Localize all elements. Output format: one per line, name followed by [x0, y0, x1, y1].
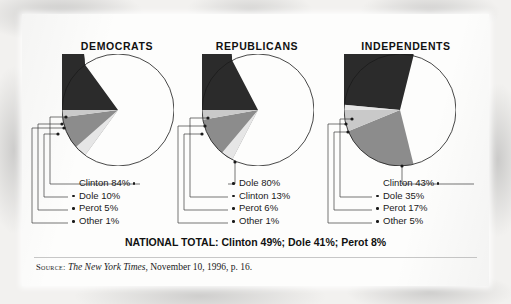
pie-chart-independents	[344, 54, 456, 166]
label-row: Clinton 13%	[232, 190, 290, 203]
bullet-dot	[72, 195, 75, 198]
national-total-line: NATIONAL TOTAL: Clinton 49%; Dole 41%; P…	[22, 236, 489, 248]
label-row: Other 5%	[376, 215, 434, 228]
label-row: Dole 35%	[376, 190, 434, 203]
pie-svg-republicans	[202, 54, 314, 166]
label-row: Dole 10%	[72, 190, 130, 203]
wedge-dole	[202, 54, 258, 116]
bullet-dot	[232, 220, 235, 223]
labels-republicans: Dole 80% Clinton 13% Perot 6% Other 1%	[232, 177, 290, 227]
label-row: Perot 6%	[232, 202, 290, 215]
label-row: Other 1%	[232, 215, 290, 228]
bullet-dot	[232, 195, 235, 198]
label-row: Clinton 84%	[72, 177, 130, 190]
bullet-dot	[437, 182, 440, 185]
pie-svg-democrats	[62, 54, 174, 166]
source-rest: , November 10, 1996, p. 16.	[146, 262, 253, 272]
chart-title-republicans: REPUBLICANS	[187, 40, 327, 52]
pie-chart-democrats	[62, 54, 174, 166]
labels-democrats: Clinton 84% Dole 10% Perot 5% Other 1%	[72, 177, 130, 227]
source-line: Source: The New York Times, November 10,…	[36, 262, 252, 272]
label-row: Perot 17%	[376, 202, 434, 215]
wedge-clinton	[344, 54, 414, 110]
label-row: Clinton 43%	[376, 177, 434, 190]
pie-chart-republicans	[202, 54, 314, 166]
wedge-dole	[62, 110, 118, 155]
source-publication: The New York Times	[68, 262, 146, 272]
bullet-dot	[376, 207, 379, 210]
bullet-dot	[72, 207, 75, 210]
chart-title-democrats: DEMOCRATS	[52, 40, 182, 52]
source-prefix: Source:	[36, 262, 66, 272]
bullet-dot	[232, 182, 235, 185]
bullet-dot	[133, 182, 136, 185]
bullet-dot	[232, 207, 235, 210]
bullet-dot	[376, 220, 379, 223]
pie-svg-independents	[344, 54, 456, 166]
bullet-dot	[72, 220, 75, 223]
label-row: Dole 80%	[232, 177, 290, 190]
footer-divider	[34, 257, 477, 258]
label-row: Other 1%	[72, 215, 130, 228]
label-row: Perot 5%	[72, 202, 130, 215]
chart-title-independents: INDEPENDENTS	[332, 40, 480, 52]
bullet-dot	[376, 195, 379, 198]
labels-independents: Clinton 43% Dole 35% Perot 17% Other 5%	[376, 177, 434, 227]
poll-figure: DEMOCRATS Clinton 84% Dole 10%	[22, 14, 489, 286]
